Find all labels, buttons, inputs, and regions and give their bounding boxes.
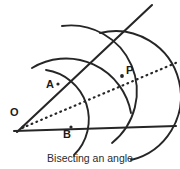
- label-vertex-o: O: [10, 107, 19, 118]
- outer-construction-arc: [100, 31, 180, 160]
- point-a-marker: [56, 82, 59, 85]
- label-point-a: A: [46, 79, 54, 90]
- vertex-point-marker: [21, 125, 24, 128]
- label-point-p: P: [126, 65, 133, 76]
- angle-bisector-dotted-line: [22, 62, 178, 128]
- figure-caption: Bisecting an angle: [0, 152, 180, 165]
- point-p-marker: [120, 74, 124, 78]
- bisecting-an-angle-figure: O A B P Bisecting an angle: [0, 0, 180, 169]
- geometry-construction-svg: [0, 0, 180, 169]
- lower-ray-line: [14, 126, 176, 131]
- label-point-b: B: [63, 129, 71, 140]
